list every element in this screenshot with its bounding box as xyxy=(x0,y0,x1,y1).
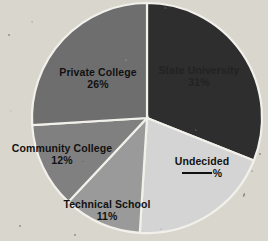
slice-label-private-college-name: Private College xyxy=(46,66,150,78)
slice-label-state-university: State University 31% xyxy=(152,64,246,89)
answer-blank-line[interactable] xyxy=(182,172,212,174)
pie-chart-page: State University 31% Private College 26%… xyxy=(0,0,268,241)
slice-label-technical-school: Technical School 11% xyxy=(52,198,162,223)
slice-label-undecided-value: % xyxy=(213,167,222,179)
paper-speck xyxy=(19,225,21,227)
slice-label-undecided-name: Undecided xyxy=(156,155,248,167)
pie-slice-private-college[interactable] xyxy=(32,3,147,125)
paper-speck xyxy=(74,234,76,236)
paper-speck xyxy=(259,153,261,155)
slice-label-community-college-value: 12% xyxy=(1,154,123,166)
slice-label-community-college: Community College 12% xyxy=(1,142,123,167)
paper-speck xyxy=(8,34,10,36)
slice-label-private-college-value: 26% xyxy=(46,78,150,90)
slice-label-technical-school-name: Technical School xyxy=(52,198,162,210)
slice-label-undecided-value-row: % xyxy=(156,167,248,179)
slice-label-private-college: Private College 26% xyxy=(46,66,150,91)
slice-label-state-university-value: 31% xyxy=(152,76,246,88)
slice-label-undecided: Undecided % xyxy=(156,155,248,180)
slice-label-community-college-name: Community College xyxy=(1,142,123,154)
slice-label-technical-school-value: 11% xyxy=(52,210,162,222)
paper-speck xyxy=(164,7,167,9)
slice-label-state-university-name: State University xyxy=(152,64,246,76)
